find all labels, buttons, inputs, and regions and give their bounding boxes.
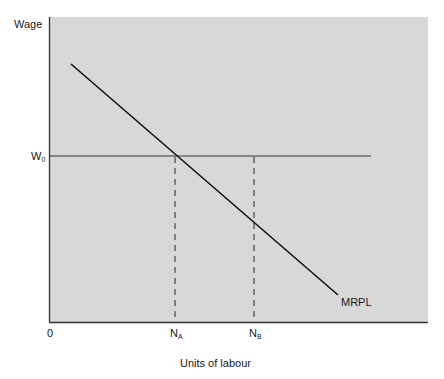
y-axis-label: Wage: [14, 18, 42, 30]
nb-label: NB: [249, 327, 262, 340]
x-axis-label: Units of labour: [180, 357, 251, 369]
mrpl-chart: Wage W0 0 NA NB MRPL Units of labour: [0, 0, 444, 379]
plot-background: [49, 17, 428, 322]
na-label: NA: [170, 327, 183, 340]
w0-label: W0: [31, 150, 45, 163]
origin-label: 0: [47, 327, 53, 339]
mrpl-label: MRPL: [341, 296, 372, 308]
